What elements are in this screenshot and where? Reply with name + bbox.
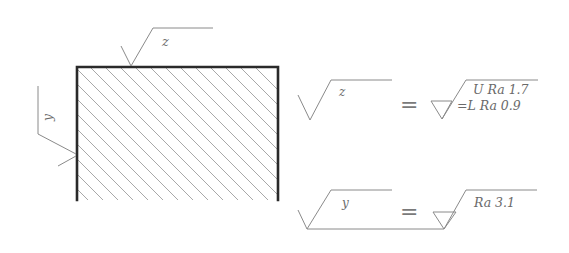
surface-callout-y: y <box>38 86 76 166</box>
legend-row-z: z = U Ra 1.7 =L Ra 0.9 <box>298 80 538 120</box>
callout-y-label: y <box>41 114 55 122</box>
legend-z-upper: U Ra 1.7 <box>473 82 529 97</box>
surface-callout-z: z <box>121 28 213 66</box>
legend-z-label: z <box>338 85 346 99</box>
callout-z-label: z <box>161 34 169 49</box>
hatch-pattern <box>0 67 388 200</box>
legend-y-label: y <box>341 196 349 210</box>
part-section <box>0 67 388 200</box>
technical-drawing: z y z = U Ra 1.7 =L Ra 0.9 y = Ra 3.1 <box>0 0 569 253</box>
legend-y-equals: = <box>400 199 418 224</box>
legend-z-lower: =L Ra 0.9 <box>457 98 521 113</box>
legend-z-equals: = <box>400 92 418 117</box>
legend-row-y: y = Ra 3.1 <box>298 190 537 229</box>
legend-y-value: Ra 3.1 <box>473 195 515 210</box>
